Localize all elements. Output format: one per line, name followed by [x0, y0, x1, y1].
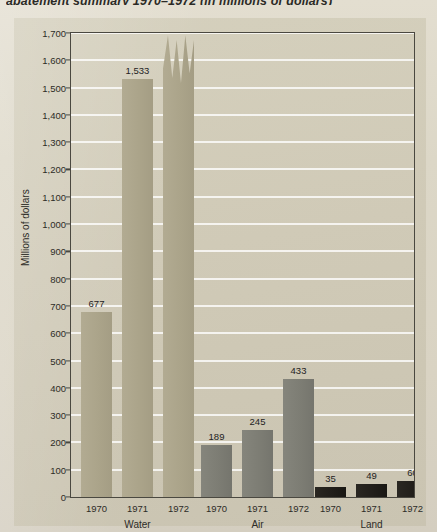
x-axis-tick-label: 1970: [86, 503, 107, 514]
x-axis-tick-label: 1972: [288, 503, 309, 514]
y-axis-tick-mark: [66, 333, 71, 334]
y-axis-tick-label: 1,100: [42, 191, 66, 202]
y-axis-tick-mark: [66, 278, 71, 279]
y-axis-tick-mark: [66, 387, 71, 388]
y-axis-tick-mark: [66, 223, 71, 224]
bar-land-1972: [397, 481, 414, 497]
y-axis-tick-mark: [66, 169, 71, 170]
bar-value-label: 245: [250, 416, 266, 427]
y-axis-tick-mark: [66, 251, 71, 252]
bar-fill: [397, 481, 414, 497]
bar-value-label: 49: [366, 470, 377, 481]
y-axis-label: Millions of dollars: [20, 189, 31, 266]
y-axis-tick-mark: [66, 360, 71, 361]
plot-inner: 6771,5332,539189245433354960: [71, 33, 414, 497]
bar-fill: [201, 445, 232, 497]
y-axis-tick-label: 1,300: [42, 137, 66, 148]
y-axis-tick-label: 400: [50, 382, 66, 393]
bar-air-1972: [283, 379, 314, 497]
y-axis-tick-label: 300: [50, 410, 66, 421]
bar-water-1971: [122, 79, 153, 497]
bar-fill: [163, 33, 194, 497]
y-axis-tick-label: 1,200: [42, 164, 66, 175]
y-axis-tick-label: 900: [50, 246, 66, 257]
bar-land-1970: [315, 487, 346, 497]
y-axis-tick-mark: [66, 469, 71, 470]
bar-fill: [242, 430, 273, 497]
bar-land-1971: [356, 484, 387, 497]
y-axis-tick-label: 200: [50, 437, 66, 448]
y-axis-tick-label: 700: [50, 300, 66, 311]
x-axis-tick-label: 1972: [402, 503, 423, 514]
x-axis-tick-label: 1972: [168, 503, 189, 514]
bar-value-label: 35: [325, 473, 336, 484]
y-axis-tick-label: 1,700: [42, 28, 66, 39]
figure-caption: abatement summary 1970–1972 (in millions…: [6, 0, 426, 5]
y-axis-tick-label: 500: [50, 355, 66, 366]
y-axis-tick-mark: [66, 60, 71, 61]
bar-value-label: 433: [291, 365, 307, 376]
bar-air-1970: [201, 445, 232, 497]
bar-water-1970: [81, 312, 112, 497]
y-axis-tick-label: 800: [50, 273, 66, 284]
bar-air-1971: [242, 430, 273, 497]
y-axis-tick-mark: [66, 442, 71, 443]
group-label-water: Water: [124, 519, 150, 530]
y-axis-tick-label: 100: [50, 464, 66, 475]
bar-fill: [81, 312, 112, 497]
bar-fill: [283, 379, 314, 497]
y-axis-tick-mark: [66, 196, 71, 197]
y-axis-tick-label: 1,500: [42, 82, 66, 93]
plot-area: 6771,5332,539189245433354960 01002003004…: [70, 32, 415, 498]
y-axis-tick-mark: [66, 32, 71, 33]
y-axis-tick-mark: [66, 114, 71, 115]
y-axis-tick-mark: [66, 142, 71, 143]
x-axis-tick-label: 1970: [206, 503, 227, 514]
x-axis-tick-label: 1971: [247, 503, 268, 514]
y-axis-tick-mark: [66, 87, 71, 88]
bar-value-label: 677: [89, 298, 105, 309]
y-axis-tick-label: 1,400: [42, 109, 66, 120]
bar-value-label: 189: [209, 431, 225, 442]
gridline: [71, 59, 414, 61]
bar-value-label: 60: [407, 467, 414, 478]
y-axis-tick-mark: [66, 496, 71, 497]
y-axis-tick-mark: [66, 415, 71, 416]
bar-fill: [315, 487, 346, 497]
y-axis-tick-label: 1,000: [42, 219, 66, 230]
bar-fill: [356, 484, 387, 497]
x-axis-tick-label: 1970: [320, 503, 341, 514]
y-axis-tick-label: 600: [50, 328, 66, 339]
figure-panel: Millions of dollars 6771,5332,5391892454…: [14, 18, 426, 526]
bar-water-1972: [163, 33, 194, 497]
y-axis-tick-label: 1,600: [42, 55, 66, 66]
bar-value-label: 1,533: [126, 65, 150, 76]
y-axis-tick-mark: [66, 305, 71, 306]
bar-fill: [122, 79, 153, 497]
group-label-air: Air: [251, 519, 263, 530]
gridline: [71, 33, 414, 34]
x-axis-tick-label: 1971: [127, 503, 148, 514]
x-axis-tick-label: 1971: [361, 503, 382, 514]
group-label-land: Land: [360, 519, 382, 530]
